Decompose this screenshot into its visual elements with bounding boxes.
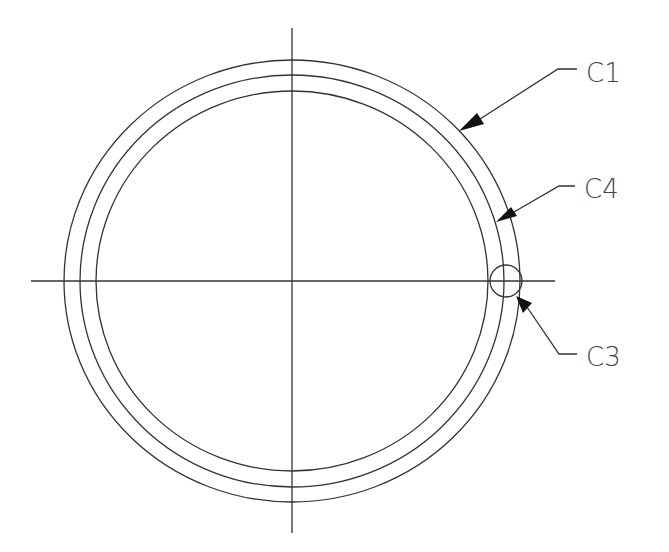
leader-c4 xyxy=(496,186,575,222)
label-c1: C1 xyxy=(586,58,621,88)
label-c4: C4 xyxy=(584,174,619,204)
leader-c1 xyxy=(459,69,577,131)
cad-drawing: C1 C4 C3 xyxy=(0,0,669,552)
leader-c3 xyxy=(516,296,577,354)
label-c3: C3 xyxy=(586,342,621,372)
